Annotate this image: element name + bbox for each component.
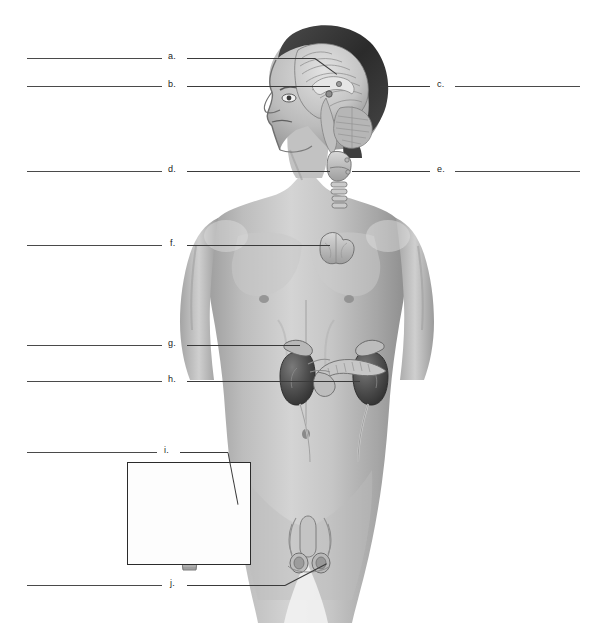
leader-line-h-a xyxy=(187,381,360,382)
answer-rule-f[interactable] xyxy=(27,245,162,246)
answer-rule-e[interactable] xyxy=(455,171,580,172)
label-letter-f: f. xyxy=(170,239,175,248)
leader-line-j-a xyxy=(187,585,285,586)
label-letter-d: d. xyxy=(168,165,176,174)
label-letter-g: g. xyxy=(168,339,176,348)
answer-rule-h[interactable] xyxy=(27,381,162,382)
leader-line-i-a xyxy=(180,452,228,453)
label-letter-c: c. xyxy=(437,80,444,89)
answer-rule-g[interactable] xyxy=(27,345,162,346)
answer-rule-i[interactable] xyxy=(27,452,157,453)
label-letter-b: b. xyxy=(168,80,176,89)
label-letter-e: e. xyxy=(437,165,445,174)
label-letter-i: i. xyxy=(164,446,169,455)
leader-line-c-a xyxy=(380,86,430,87)
endocrine-system-illustration xyxy=(0,0,608,623)
leader-line-d-a xyxy=(187,171,330,172)
worksheet-canvas: a.b.c.d.e.f.g.h.i.j. xyxy=(0,0,608,623)
answer-rule-d[interactable] xyxy=(27,171,162,172)
head-sagittal-section xyxy=(264,25,388,158)
label-letter-h: h. xyxy=(168,375,176,384)
leader-line-g-a xyxy=(187,345,300,346)
label-letter-a: a. xyxy=(168,52,176,61)
cropped-text-artifact xyxy=(0,0,608,5)
leader-line-a-a xyxy=(187,58,315,59)
leader-line-f-a xyxy=(187,245,330,246)
label-letter-j: j. xyxy=(170,579,175,588)
answer-rule-b[interactable] xyxy=(27,86,162,87)
leader-line-e-a xyxy=(352,171,430,172)
answer-rule-j[interactable] xyxy=(27,585,162,586)
answer-rule-a[interactable] xyxy=(27,58,162,59)
answer-rule-c[interactable] xyxy=(455,86,580,87)
leader-line-b-a xyxy=(187,86,330,87)
